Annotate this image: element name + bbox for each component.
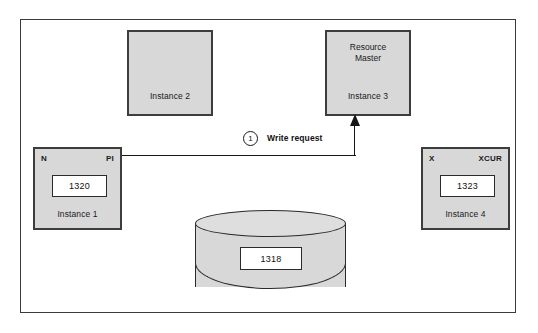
instance-1-node[interactable]: N PI 1320 Instance 1 bbox=[33, 147, 122, 230]
instance-4-role-label: XCUR bbox=[479, 154, 502, 163]
instance-2-node[interactable]: Instance 2 bbox=[127, 30, 213, 116]
cylinder-top-ellipse bbox=[195, 210, 346, 237]
instance-2-caption: Instance 2 bbox=[129, 91, 211, 101]
instance-1-role-label: PI bbox=[106, 154, 114, 163]
instance-4-scn-value: 1323 bbox=[440, 175, 495, 197]
database-cylinder-icon[interactable]: 1318 bbox=[195, 210, 346, 300]
instance-1-scn-value: 1320 bbox=[52, 175, 107, 197]
instance-4-caption: Instance 4 bbox=[423, 209, 508, 219]
instance-4-mode-label: X bbox=[429, 154, 435, 163]
diagram-canvas: Instance 2 Resource Master Instance 3 N … bbox=[0, 0, 538, 333]
database-scn-value: 1318 bbox=[240, 247, 302, 270]
write-request-line-vertical bbox=[354, 124, 355, 156]
arrowhead-up-icon bbox=[350, 114, 360, 126]
instance-4-node[interactable]: X XCUR 1323 Instance 4 bbox=[421, 147, 510, 230]
instance-3-caption: Instance 3 bbox=[327, 91, 409, 101]
step-1-badge: 1 bbox=[243, 131, 258, 146]
instance-1-caption: Instance 1 bbox=[35, 209, 120, 219]
resource-master-title: Resource Master bbox=[327, 42, 409, 64]
write-request-label: Write request bbox=[265, 133, 324, 143]
instance-3-node[interactable]: Resource Master Instance 3 bbox=[325, 30, 411, 116]
instance-1-mode-label: N bbox=[41, 154, 47, 163]
write-request-line-horizontal bbox=[122, 155, 356, 156]
